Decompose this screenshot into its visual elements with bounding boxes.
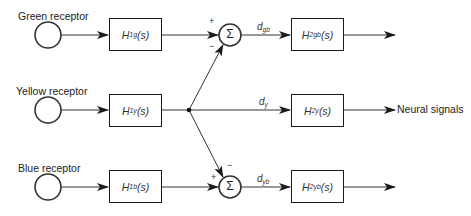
block-arg: (s) xyxy=(321,29,333,41)
green-receptor-circle xyxy=(35,22,61,48)
block-h1y: H1y(s) xyxy=(109,94,162,127)
sum-symbol-bottom: Σ xyxy=(224,179,236,193)
yellow-receptor-circle xyxy=(35,97,61,123)
minus-sign-top: − xyxy=(209,41,214,51)
blue-receptor-label: Blue receptor xyxy=(18,162,80,174)
block-arg: (s) xyxy=(321,181,333,193)
block-symbol: H xyxy=(122,29,130,41)
block-symbol: H xyxy=(122,181,130,193)
block-arg: (s) xyxy=(137,29,149,41)
block-arg: (s) xyxy=(319,105,331,117)
signal-subscript: gb xyxy=(263,26,270,33)
signal-d-gb: dgb xyxy=(257,21,270,33)
block-h1g: H1g(s) xyxy=(109,18,162,51)
blue-receptor-circle xyxy=(35,174,61,200)
block-h2gb: H2gb(s) xyxy=(291,18,344,51)
block-symbol: H xyxy=(122,105,130,117)
yellow-receptor-label: Yellow receptor xyxy=(16,85,87,97)
block-arg: (s) xyxy=(137,105,149,117)
block-h1b: H1b(s) xyxy=(109,170,162,203)
block-subscript: 2y xyxy=(311,107,318,114)
block-subscript: 2gb xyxy=(309,31,321,38)
block-h2y: H2y(s) xyxy=(291,94,344,127)
signal-d-yb: dyb xyxy=(257,173,269,185)
block-subscript: 1b xyxy=(129,183,137,190)
branch-junction-dot xyxy=(187,108,192,113)
neural-signals-label: Neural signals xyxy=(397,103,464,115)
minus-sign-bottom: − xyxy=(227,160,232,170)
block-subscript: 1y xyxy=(129,107,136,114)
block-subscript: 2yb xyxy=(310,183,321,190)
green-receptor-label: Green receptor xyxy=(18,10,89,22)
signal-subscript: y xyxy=(265,101,268,108)
block-arg: (s) xyxy=(137,181,149,193)
block-symbol: H xyxy=(302,181,310,193)
plus-sign-bottom: + xyxy=(211,172,216,182)
signal-subscript: yb xyxy=(263,178,270,185)
plus-sign-top: + xyxy=(209,16,214,26)
sum-symbol-top: Σ xyxy=(224,27,236,41)
block-h2yb: H2yb(s) xyxy=(291,170,344,203)
signal-d-y: dy xyxy=(259,96,268,108)
block-subscript: 1g xyxy=(129,31,137,38)
